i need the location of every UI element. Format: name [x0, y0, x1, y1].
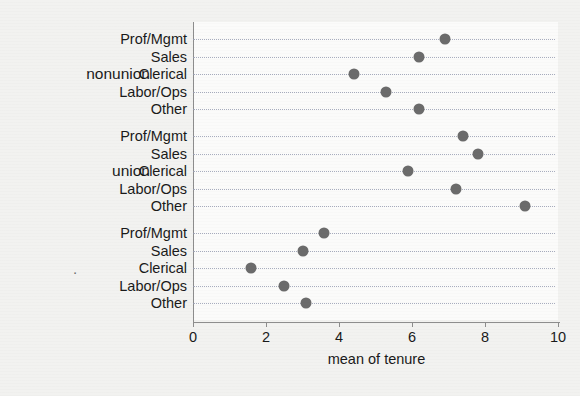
gridline — [193, 136, 555, 137]
category-label: Prof/Mgmt — [120, 128, 187, 144]
data-point — [279, 280, 290, 291]
gridline — [193, 303, 555, 304]
category-label: Other — [151, 101, 187, 117]
x-tick-label: 10 — [550, 329, 566, 345]
x-tick-label: 8 — [481, 329, 489, 345]
data-point — [403, 166, 414, 177]
category-label: Sales — [151, 146, 187, 162]
data-point — [301, 298, 312, 309]
data-point — [450, 183, 461, 194]
gridline — [193, 251, 555, 252]
gridline — [193, 171, 555, 172]
category-label: Labor/Ops — [119, 84, 187, 100]
category-label: Prof/Mgmt — [120, 31, 187, 47]
group-label: nonunion — [0, 65, 150, 83]
x-tick-label: 4 — [335, 329, 343, 345]
gridline — [193, 233, 555, 234]
gridline — [193, 92, 555, 93]
data-point — [297, 245, 308, 256]
category-label: Sales — [151, 243, 187, 259]
category-label: Prof/Mgmt — [120, 225, 187, 241]
x-tick-mark — [412, 322, 413, 327]
x-axis-title: mean of tenure — [193, 351, 560, 367]
x-tick-mark — [485, 322, 486, 327]
data-point — [319, 228, 330, 239]
data-point — [381, 86, 392, 97]
x-tick-label: 0 — [189, 329, 197, 345]
data-point — [472, 148, 483, 159]
x-tick-label: 6 — [408, 329, 416, 345]
x-tick-mark — [266, 322, 267, 327]
category-label: Other — [151, 198, 187, 214]
data-point — [520, 201, 531, 212]
gridline — [193, 74, 555, 75]
category-label: Other — [151, 295, 187, 311]
gridline — [193, 109, 555, 110]
gridline — [193, 189, 555, 190]
data-point — [414, 51, 425, 62]
data-point — [458, 131, 469, 142]
x-tick-mark — [339, 322, 340, 327]
x-axis-line — [193, 322, 560, 323]
category-label: Labor/Ops — [119, 181, 187, 197]
gridline — [193, 286, 555, 287]
gridline — [193, 154, 555, 155]
gridline — [193, 39, 555, 40]
category-label: Clerical — [139, 260, 187, 276]
gridline — [193, 206, 555, 207]
data-point — [414, 104, 425, 115]
dot-plot-chart: Prof/MgmtSalesClericalLabor/OpsOtherProf… — [0, 0, 580, 396]
data-point — [246, 263, 257, 274]
gridline — [193, 57, 555, 58]
data-point — [348, 69, 359, 80]
x-tick-mark — [558, 322, 559, 327]
category-label: Labor/Ops — [119, 278, 187, 294]
group-label: . — [60, 260, 90, 277]
group-label: union — [0, 162, 150, 180]
data-point — [439, 34, 450, 45]
x-tick-label: 2 — [262, 329, 270, 345]
category-label: Sales — [151, 49, 187, 65]
x-tick-mark — [193, 322, 194, 327]
